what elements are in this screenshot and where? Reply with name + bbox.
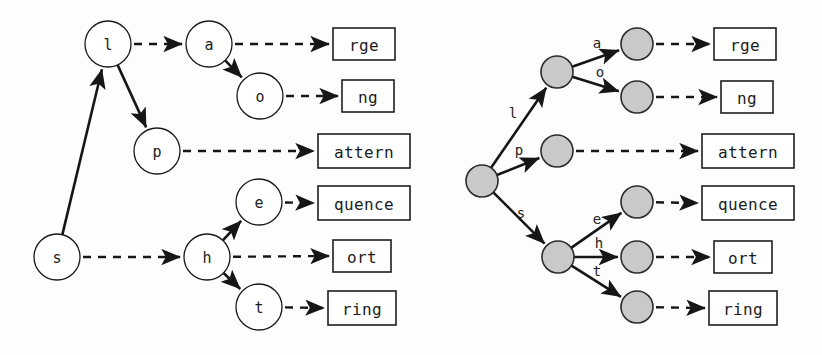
- terminal-box: rge: [333, 28, 395, 60]
- trie-figure: rgengatternquenceortringslpaohet rgengat…: [0, 0, 822, 355]
- node-label: t: [254, 299, 263, 317]
- dashed-edge: [656, 202, 698, 203]
- terminal-box-label: ring: [723, 300, 763, 319]
- trie-node: [542, 241, 574, 273]
- edge-label: l: [509, 105, 517, 121]
- terminal-box-label: ng: [737, 89, 757, 108]
- edge-label: h: [595, 235, 603, 251]
- edge-label: e: [593, 211, 601, 227]
- trie-node: s: [34, 234, 80, 280]
- figure-canvas: rgengatternquenceortringslpaohet rgengat…: [0, 0, 822, 355]
- terminal-box: ng: [342, 80, 394, 112]
- solid-edge: [225, 60, 242, 77]
- trie-node: [621, 291, 653, 323]
- node-circle-shaded: [542, 241, 574, 273]
- trie-node: e: [236, 179, 282, 225]
- trie-node: l: [85, 21, 131, 67]
- trie-node: p: [134, 128, 180, 174]
- trie-node: h: [184, 234, 230, 280]
- trie-node: [621, 28, 653, 60]
- node-label: e: [254, 194, 263, 212]
- node-label: l: [103, 36, 112, 54]
- trie-node: [621, 81, 653, 113]
- trie-node: [621, 241, 653, 273]
- edge-label: a: [593, 35, 601, 51]
- dashed-edge: [285, 202, 314, 203]
- node-label: s: [52, 249, 61, 267]
- solid-edge: [223, 221, 241, 240]
- terminal-box-label: attern: [334, 143, 394, 162]
- terminal-box-label: ort: [728, 249, 758, 268]
- trie-node: [541, 56, 573, 88]
- terminal-box: ring: [709, 291, 777, 325]
- trie-node: [541, 135, 573, 167]
- terminal-box-label: quence: [718, 195, 778, 214]
- node-circle-shaded: [466, 165, 498, 197]
- node-label: o: [255, 88, 264, 106]
- node-label: h: [202, 249, 211, 267]
- node-circle-shaded: [621, 81, 653, 113]
- terminal-box-label: ring: [342, 300, 382, 319]
- terminal-box-label: ort: [347, 248, 377, 267]
- terminal-box: attern: [318, 134, 410, 168]
- terminal-box: ort: [333, 240, 391, 272]
- terminal-box-label: ng: [358, 88, 378, 107]
- trie-node: t: [236, 284, 282, 330]
- node-circle-shaded: [621, 241, 653, 273]
- terminal-box: attern: [702, 134, 794, 168]
- solid-edge: [224, 273, 241, 289]
- solid-edge: [497, 158, 540, 175]
- terminal-box: rge: [714, 28, 776, 60]
- edge-label: t: [593, 263, 601, 279]
- node-circle-shaded: [621, 291, 653, 323]
- node-label: p: [152, 143, 161, 161]
- node-circle-shaded: [541, 135, 573, 167]
- edge-label: o: [596, 64, 604, 80]
- left-trie-group: rgengatternquenceortringslpaohet: [34, 21, 410, 330]
- terminal-box-label: rge: [730, 36, 760, 55]
- terminal-box: ring: [328, 291, 396, 325]
- terminal-box: quence: [318, 186, 410, 220]
- terminal-box: ng: [721, 81, 773, 113]
- terminal-box: quence: [702, 186, 794, 220]
- terminal-box-label: rge: [349, 36, 379, 55]
- terminal-box-label: attern: [718, 143, 778, 162]
- dashed-edge: [285, 307, 324, 308]
- edge-label: p: [515, 142, 523, 158]
- terminal-box: ort: [714, 241, 772, 273]
- terminal-box-label: quence: [334, 195, 394, 214]
- edge-label: s: [517, 205, 525, 221]
- trie-node: [621, 186, 653, 218]
- node-label: a: [204, 36, 213, 54]
- node-circle-shaded: [541, 56, 573, 88]
- trie-node: a: [186, 21, 232, 67]
- trie-node: [466, 165, 498, 197]
- node-circle-shaded: [621, 186, 653, 218]
- node-circle-shaded: [621, 28, 653, 60]
- right-trie-group: rgengatternquenceortringlpsaoeht: [466, 28, 794, 325]
- trie-node: o: [237, 73, 283, 119]
- dashed-edge: [233, 256, 329, 257]
- solid-edge: [62, 69, 102, 234]
- solid-edge: [118, 65, 147, 127]
- dashed-edge: [656, 307, 705, 308]
